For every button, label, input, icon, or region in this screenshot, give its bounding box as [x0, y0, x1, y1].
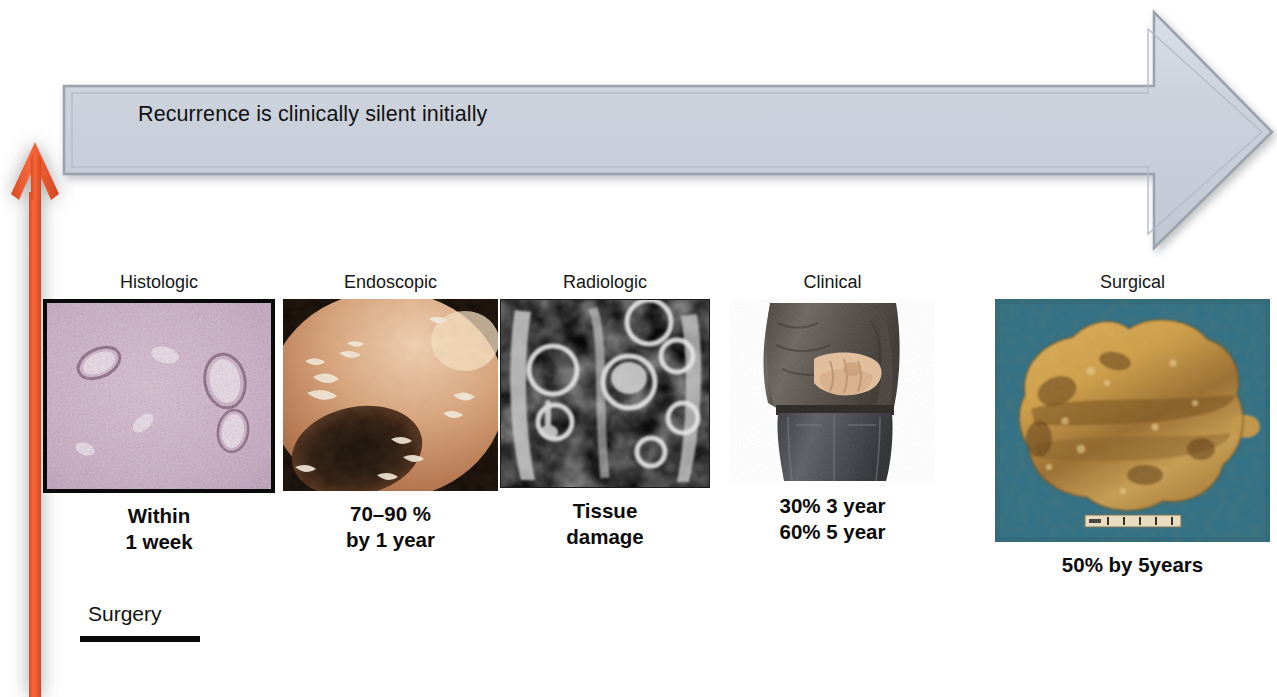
- baseline-underline: [80, 636, 200, 642]
- column-endoscopic: Endoscopic: [283, 272, 498, 553]
- caption-line: 1 week: [43, 529, 275, 555]
- baseline-label-surgery: Surgery: [88, 602, 162, 626]
- recurrence-banner-arrow: Recurrence is clinically silent initiall…: [56, 4, 1277, 258]
- column-surgical: Surgical: [995, 272, 1270, 578]
- caption-line: 50% by 5years: [995, 552, 1270, 578]
- diagram-canvas: Recurrence is clinically silent initiall…: [0, 0, 1277, 697]
- caption-line: 70–90 %: [283, 501, 498, 527]
- mri-scan-image: [500, 299, 710, 488]
- caption-line: 60% 5 year: [730, 519, 935, 545]
- caption-radiologic: Tissue damage: [500, 498, 710, 550]
- column-label-histologic: Histologic: [43, 272, 275, 293]
- column-label-surgical: Surgical: [995, 272, 1270, 293]
- column-label-clinical: Clinical: [730, 272, 935, 293]
- caption-clinical: 30% 3 year 60% 5 year: [730, 493, 935, 545]
- column-radiologic: Radiologic: [500, 272, 710, 550]
- caption-surgical: 50% by 5years: [995, 552, 1270, 578]
- patient-abdominal-pain-photo-image: [730, 299, 935, 481]
- banner-text: Recurrence is clinically silent initiall…: [138, 102, 487, 127]
- caption-line: 30% 3 year: [730, 493, 935, 519]
- column-label-endoscopic: Endoscopic: [283, 272, 498, 293]
- specimen-scale-ruler: [1085, 515, 1181, 527]
- caption-histologic: Within 1 week: [43, 503, 275, 555]
- caption-line: by 1 year: [283, 527, 498, 553]
- column-clinical: Clinical: [730, 272, 935, 545]
- caption-endoscopic: 70–90 % by 1 year: [283, 501, 498, 553]
- endoscopy-photo-image: [283, 299, 498, 491]
- caption-line: damage: [500, 524, 710, 550]
- resected-bowel-specimen-photo-image: [995, 299, 1270, 542]
- caption-line: Within: [43, 503, 275, 529]
- column-label-radiologic: Radiologic: [500, 272, 710, 293]
- histology-micrograph-image: [43, 299, 275, 493]
- caption-line: Tissue: [500, 498, 710, 524]
- column-histologic: Histologic: [43, 272, 275, 555]
